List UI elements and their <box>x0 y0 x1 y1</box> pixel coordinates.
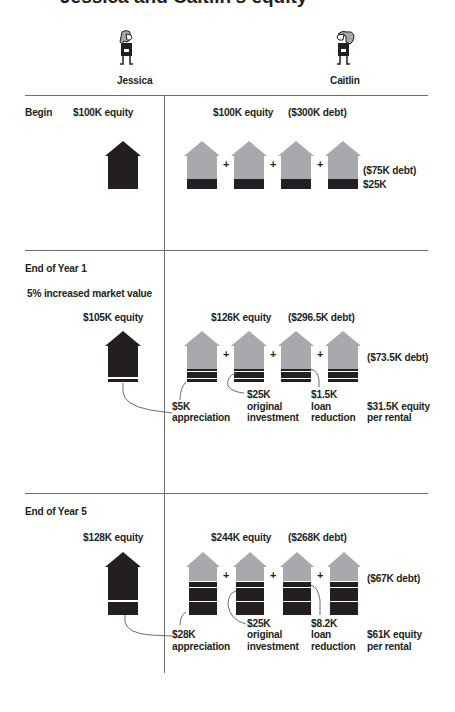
connector-lines-year5 <box>0 0 455 712</box>
callout-equity-per-rental1-year5: $61K equity <box>367 628 422 640</box>
callout-loan-label2-year5: reduction <box>311 640 356 652</box>
callout-appreciation-amount-year5: $28K <box>172 628 195 640</box>
callout-appreciation-label-year5: appreciation <box>172 640 230 652</box>
callout-original-label2-year5: investment <box>247 640 299 652</box>
callout-equity-per-rental2-year5: per rental <box>367 640 411 652</box>
callout-loan-label1-year5: loan <box>311 628 331 640</box>
callout-original-label1-year5: original <box>247 628 282 640</box>
